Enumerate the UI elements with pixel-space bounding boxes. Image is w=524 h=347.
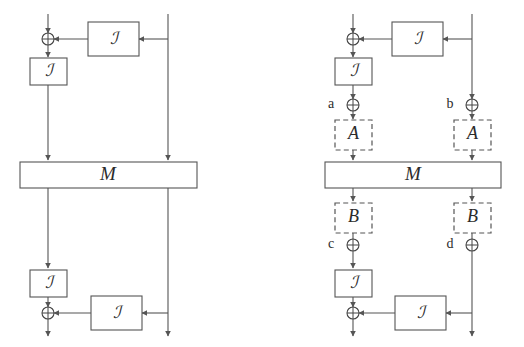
xor-c-label: c <box>328 236 334 251</box>
right-xor-b <box>466 99 478 111</box>
right-xor-a <box>347 99 359 111</box>
right-bottom-xor <box>347 307 359 319</box>
right-panel: ℐ ℐ a b A A M <box>325 14 501 336</box>
diff-a-left-label: A <box>347 123 360 143</box>
right-top-xor <box>347 33 359 45</box>
right-mix-label: M <box>404 163 422 184</box>
left-mix-label: M <box>99 163 117 184</box>
diagram-canvas: ℐ ℐ M ℐ <box>0 0 524 347</box>
xor-d-label: d <box>447 236 454 251</box>
left-panel: ℐ ℐ M ℐ <box>20 14 197 336</box>
diff-b-left-label: B <box>348 206 359 226</box>
right-xor-d <box>466 239 478 251</box>
right-xor-c <box>347 239 359 251</box>
left-bottom-xor <box>42 307 54 319</box>
diff-a-right-label: A <box>466 123 479 143</box>
left-top-xor <box>42 33 54 45</box>
xor-a-label: a <box>328 96 335 111</box>
diff-b-right-label: B <box>467 206 478 226</box>
xor-b-label: b <box>447 96 454 111</box>
